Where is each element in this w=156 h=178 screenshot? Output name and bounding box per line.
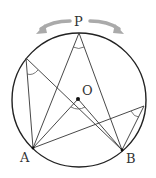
circle-diagram: P O A B <box>0 0 156 178</box>
radius-OB <box>78 99 122 150</box>
label-P: P <box>74 14 83 29</box>
point-A <box>32 147 35 150</box>
label-O: O <box>82 83 93 98</box>
angle-marks <box>27 47 139 117</box>
angle-arc-P <box>73 47 84 49</box>
radius-OA <box>33 99 78 148</box>
chord-DA <box>33 106 144 148</box>
angle-arc-D <box>131 111 139 117</box>
chord-CA <box>26 58 33 148</box>
angle-arc-C <box>27 70 38 75</box>
label-A: A <box>19 150 30 165</box>
center-point-O <box>76 97 80 101</box>
label-B: B <box>126 151 136 166</box>
chord-PA <box>33 33 79 148</box>
point-B <box>121 149 124 152</box>
